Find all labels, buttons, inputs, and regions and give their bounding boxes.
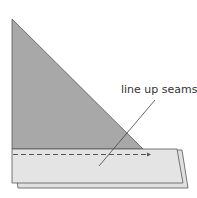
seam-diagram: line up seams: [0, 0, 197, 198]
annotation-label: line up seams: [121, 83, 197, 96]
